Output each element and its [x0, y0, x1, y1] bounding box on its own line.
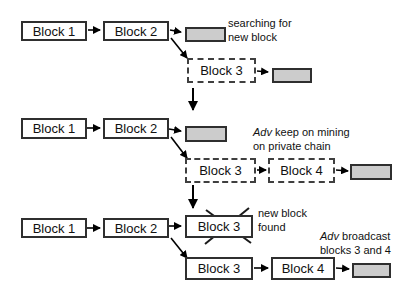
r1-private-block-3: Block 3 — [187, 58, 256, 83]
adv-italic-label: Adv — [320, 230, 339, 242]
r3-found-note-line2: found — [258, 221, 307, 235]
arrow-r1-block3-pending — [257, 71, 268, 72]
r2-private-block-4: Block 4 — [268, 158, 335, 183]
arrow-r3-block2-private-block3 — [171, 238, 187, 258]
r3-broadcast-line1-rest: broadcast — [339, 230, 390, 242]
r1-searching-note: searching for new block — [228, 17, 292, 44]
arrow-r2-block4-pending — [336, 170, 348, 171]
r1-pending-block — [185, 27, 226, 42]
r3-block-1: Block 1 — [21, 218, 87, 238]
arrow-r1-block2-pending — [170, 30, 181, 32]
r2-pending-block — [185, 126, 227, 142]
r2-adv-mining-note-line1: Adv keep on mining — [253, 126, 350, 140]
r2-block-2: Block 2 — [103, 118, 169, 139]
r3-new-block-found-note: new block found — [258, 207, 307, 234]
r3-broadcast-note-line2: blocks 3 and 4 — [320, 244, 391, 258]
r3-crossed-block-3: Block 3 — [185, 215, 253, 238]
adv-italic-label: Adv — [253, 126, 272, 138]
arrow-r2-block2-pending — [169, 129, 181, 131]
selfish-mining-diagram: Block 1 Block 2 searching for new block … — [0, 0, 412, 294]
r3-broadcast-note-line1: Adv broadcast — [320, 230, 391, 244]
arrow-r3-block4-pending — [336, 268, 349, 269]
r1-searching-note-line1: searching for — [228, 17, 292, 31]
r1-block-2: Block 2 — [103, 21, 169, 41]
r3-found-note-line1: new block — [258, 207, 307, 221]
r2-note-line1-rest: keep on mining — [272, 126, 350, 138]
r2-private-pending-block — [350, 164, 392, 180]
r1-private-pending-block — [272, 68, 312, 83]
r3-private-block-4: Block 4 — [271, 257, 335, 280]
r2-private-block-3: Block 3 — [185, 158, 256, 183]
r3-private-block-3: Block 3 — [185, 257, 253, 280]
r1-searching-note-line2: new block — [228, 31, 292, 45]
r2-adv-mining-note-line2: on private chain — [253, 140, 350, 154]
r2-block-1: Block 1 — [21, 118, 87, 139]
r3-private-pending-block — [352, 263, 391, 278]
r1-block-1: Block 1 — [21, 21, 87, 41]
r3-block-2: Block 2 — [103, 218, 169, 238]
r3-adv-broadcast-note: Adv broadcast blocks 3 and 4 — [320, 230, 391, 257]
r2-adv-mining-note: Adv keep on mining on private chain — [253, 126, 350, 153]
